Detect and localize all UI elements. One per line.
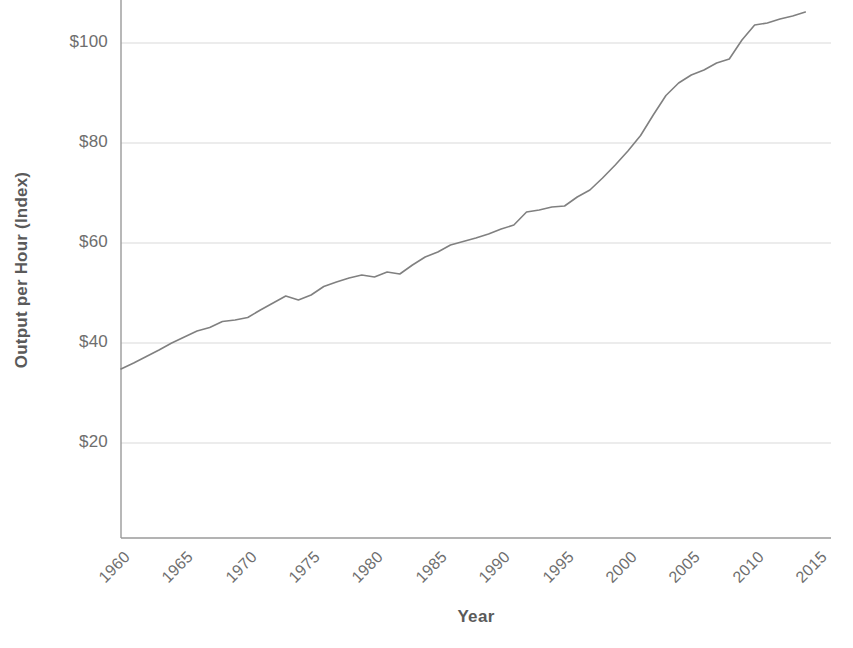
- productivity-line-chart: $20$40$60$80$100 19601965197019751980198…: [0, 0, 853, 648]
- gridlines-group: [121, 43, 831, 443]
- y-axis-title: Output per Hour (Index): [12, 120, 32, 420]
- y-tick-label: $100: [30, 32, 108, 52]
- y-tick-label: $20: [30, 432, 108, 452]
- y-tick-label: $40: [30, 332, 108, 352]
- chart-plot-area: [0, 0, 853, 648]
- x-axis-title: Year: [121, 607, 831, 627]
- data-series-line: [121, 12, 805, 369]
- y-tick-label: $60: [30, 232, 108, 252]
- y-tick-label: $80: [30, 132, 108, 152]
